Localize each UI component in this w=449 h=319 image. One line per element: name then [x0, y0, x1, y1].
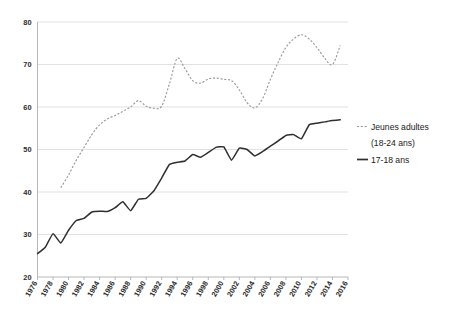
legend-label-jeunes-adultes-line2: (18-24 ans): [371, 138, 415, 148]
chart-figure: 20304050607080 1976197819801982198419861…: [0, 0, 449, 319]
legend-label-17-18-ans: 17-18 ans: [371, 155, 409, 165]
y-tick-label-50: 50: [23, 145, 31, 154]
legend-label-jeunes-adultes-line1: Jeunes adultes: [371, 122, 429, 132]
y-tick-label-40: 40: [23, 188, 31, 197]
y-tick-label-70: 70: [23, 60, 31, 69]
x-axis-tick-marks: [38, 277, 349, 280]
y-tick-label-80: 80: [23, 18, 31, 27]
line-chart: 20304050607080 1976197819801982198419861…: [0, 0, 449, 319]
y-tick-label-60: 60: [23, 103, 31, 112]
y-tick-label-30: 30: [23, 230, 31, 239]
